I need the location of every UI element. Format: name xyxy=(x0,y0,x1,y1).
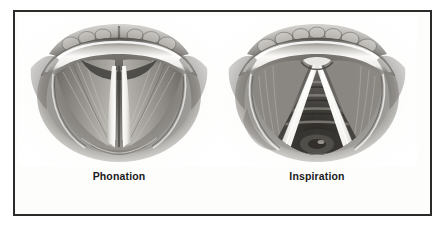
panel-label-phonation: Phonation xyxy=(19,170,219,182)
larynx-inspiration-svg xyxy=(217,16,417,166)
larynx-inspiration-illustration xyxy=(217,16,417,166)
panel-label-inspiration: Inspiration xyxy=(217,170,417,182)
panel-phonation: Phonation xyxy=(19,12,219,214)
figure-frame-border: Phonation xyxy=(13,10,432,216)
larynx-phonation-illustration xyxy=(19,16,219,166)
panel-inspiration: Inspiration xyxy=(217,12,417,214)
figure-root: Phonation xyxy=(0,0,446,227)
larynx-phonation-svg xyxy=(19,16,219,166)
